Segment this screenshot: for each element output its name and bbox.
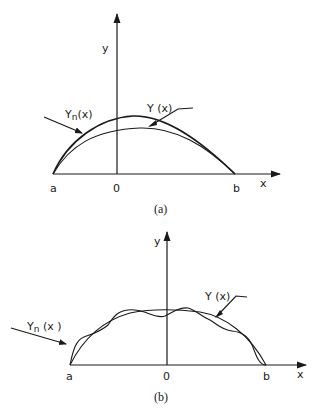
- yn-label: Yn (x ): [26, 320, 62, 334]
- y-label: Y (x): [204, 290, 230, 303]
- x-axis-label: x: [260, 177, 267, 190]
- y-axis-label: y: [154, 235, 161, 248]
- caption-a: (a): [154, 202, 167, 216]
- tick-a: a: [50, 182, 57, 195]
- curve-y-exact: [53, 128, 235, 174]
- tick-b: b: [233, 182, 240, 195]
- tick-origin: 0: [163, 370, 170, 383]
- diagram-canvas: y x Yn(x) Y (x) a 0 b (a) y x Yn (x ) Y …: [0, 0, 317, 409]
- panel-a: y x Yn(x) Y (x) a 0 b (a): [44, 14, 280, 216]
- y-label: Y (x): [146, 102, 172, 115]
- tick-a: a: [66, 370, 73, 383]
- curve-yn-approx: [70, 308, 266, 365]
- y-axis-label: y: [102, 42, 109, 55]
- curve-yn-approx: [53, 116, 235, 174]
- caption-b: (b): [154, 390, 168, 404]
- tick-origin: 0: [113, 182, 120, 195]
- curve-y-exact: [70, 310, 266, 365]
- panel-b: y x Yn (x ) Y (x) a 0 b (b): [11, 232, 306, 404]
- y-pointer-head: [148, 120, 157, 127]
- yn-label: Yn(x): [64, 108, 93, 122]
- x-axis-label: x: [297, 368, 304, 381]
- tick-b: b: [263, 370, 270, 383]
